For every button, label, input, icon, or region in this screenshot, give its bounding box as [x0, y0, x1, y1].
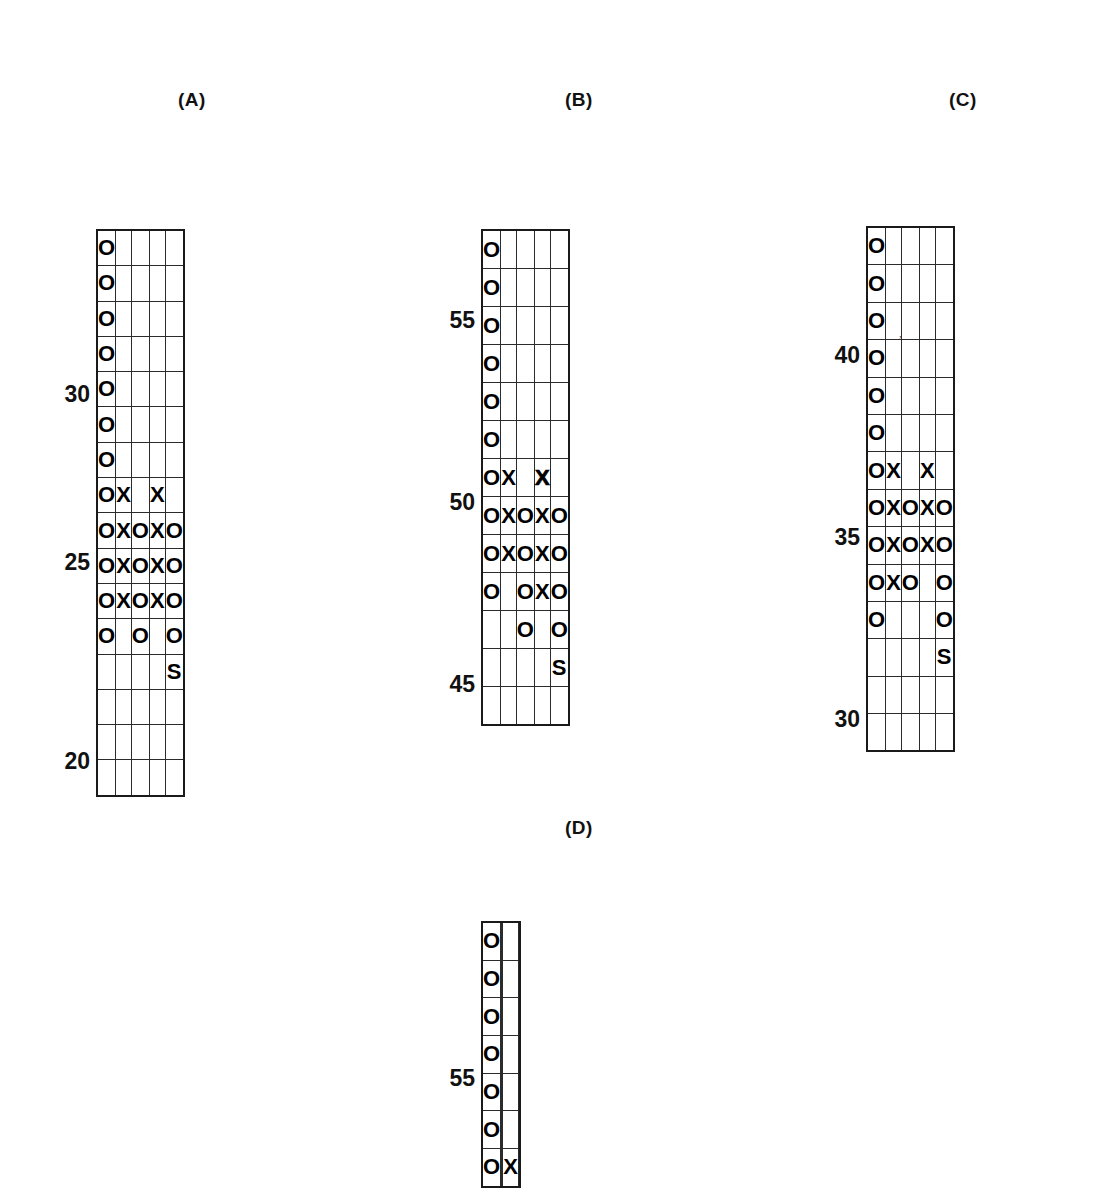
- chart-title-d: (D): [565, 817, 593, 839]
- pf-cell-empty: [116, 760, 132, 796]
- pf-grid-row: O: [482, 1036, 520, 1074]
- pf-cell-o: O: [482, 1073, 501, 1111]
- axis-label-c-35: 35: [822, 524, 860, 551]
- pf-cell-empty: [886, 601, 902, 638]
- pf-cell-empty: [867, 714, 886, 752]
- pf-cell-empty: [534, 649, 550, 687]
- pf-grid-row: OX: [482, 1149, 520, 1187]
- pf-cell-empty: [534, 269, 550, 307]
- pf-cell-empty: [131, 372, 149, 407]
- pf-grid-row: O: [867, 377, 954, 414]
- pf-cell-empty: [501, 383, 517, 421]
- axis-label-d-55: 55: [437, 1065, 475, 1092]
- pf-cell-empty: [516, 383, 534, 421]
- chart-grid-b: OOOOOOOXXOXOXOOXOXOOOXOOOS: [481, 229, 570, 726]
- pf-cell-empty: [935, 227, 954, 265]
- pf-cell-empty: [131, 407, 149, 442]
- pf-cell-o: O: [165, 619, 184, 654]
- pf-cell-empty: [550, 459, 569, 497]
- pf-cell-empty: [919, 601, 935, 638]
- pf-cell-o: O: [97, 336, 116, 371]
- pf-cell-empty: [534, 687, 550, 726]
- pf-cell-empty: [131, 689, 149, 724]
- pf-cell-o: O: [482, 269, 501, 307]
- pf-cell-empty: [550, 307, 569, 345]
- pf-cell-o: O: [867, 564, 886, 601]
- pf-cell-s: S: [935, 639, 954, 676]
- pf-cell-empty: [165, 372, 184, 407]
- pf-grid-row: OXX: [97, 478, 184, 513]
- pf-cell-o: O: [97, 407, 116, 442]
- pf-cell-o: O: [482, 998, 501, 1036]
- pf-cell-empty: [501, 421, 517, 459]
- pf-cell-empty: [901, 302, 919, 339]
- axis-label-b-45: 45: [437, 671, 475, 698]
- pf-cell-empty: [901, 639, 919, 676]
- pf-cell-x: X: [149, 548, 165, 583]
- pf-cell-x: X: [886, 527, 902, 564]
- pf-cell-empty: [165, 725, 184, 760]
- pf-grid-row: OXOXO: [867, 489, 954, 526]
- pf-cell-empty: [534, 611, 550, 649]
- pf-grid-row: O: [482, 345, 569, 383]
- pf-grid-row: [867, 676, 954, 713]
- pf-cell-x: X: [501, 497, 517, 535]
- pf-cell-empty: [503, 960, 519, 998]
- pf-cell-empty: [518, 960, 520, 998]
- pf-grid-row: O: [867, 265, 954, 302]
- pf-cell-empty: [901, 265, 919, 302]
- pf-cell-empty: [165, 301, 184, 336]
- pf-cell-empty: [518, 1149, 520, 1187]
- pf-cell-empty: [149, 230, 165, 266]
- pf-cell-o: O: [935, 527, 954, 564]
- pf-grid-row: S: [482, 649, 569, 687]
- pf-cell-empty: [886, 227, 902, 265]
- pf-cell-empty: [919, 340, 935, 377]
- pf-cell-empty: [503, 922, 519, 960]
- pf-cell-empty: [97, 689, 116, 724]
- pf-cell-empty: [503, 998, 519, 1036]
- pf-cell-empty: [116, 689, 132, 724]
- pf-cell-empty: [116, 619, 132, 654]
- pf-cell-empty: [919, 564, 935, 601]
- pf-cell-empty: [901, 414, 919, 451]
- pf-cell-empty: [516, 230, 534, 269]
- pf-grid-row: O: [482, 922, 520, 960]
- pf-cell-o: O: [97, 266, 116, 301]
- pf-cell-empty: [518, 1073, 520, 1111]
- pf-cell-empty: [149, 266, 165, 301]
- pf-grid-row: OOO: [97, 619, 184, 654]
- pf-grid-row: [482, 687, 569, 726]
- pf-cell-empty: [901, 340, 919, 377]
- pf-grid-row: OXOXO: [867, 527, 954, 564]
- pf-cell-empty: [116, 372, 132, 407]
- pf-grid-row: OXOXO: [482, 497, 569, 535]
- pf-cell-o: O: [482, 497, 501, 535]
- pf-cell-o: O: [550, 611, 569, 649]
- pf-cell-empty: [503, 1111, 519, 1149]
- pf-grid-row: [97, 760, 184, 796]
- pf-cell-empty: [149, 301, 165, 336]
- pf-cell-o: O: [867, 489, 886, 526]
- pf-cell-empty: [550, 421, 569, 459]
- pf-cell-o: O: [482, 922, 501, 960]
- pf-cell-empty: [501, 345, 517, 383]
- pf-cell-o: O: [482, 573, 501, 611]
- pf-grid-table-c: OOOOOOOXXOXOXOOXOXOOXOOOOS: [866, 226, 955, 752]
- pf-cell-empty: [501, 269, 517, 307]
- pf-cell-x: X: [886, 564, 902, 601]
- pf-cell-o: O: [516, 497, 534, 535]
- pf-cell-empty: [919, 265, 935, 302]
- pf-cell-o: O: [131, 548, 149, 583]
- pf-cell-o: O: [165, 548, 184, 583]
- pf-cell-empty: [131, 301, 149, 336]
- pf-cell-o: O: [482, 307, 501, 345]
- pf-grid-row: OXX: [867, 452, 954, 489]
- pf-cell-empty: [149, 725, 165, 760]
- pf-cell-x: X: [116, 513, 132, 548]
- pf-grid-row: O: [97, 266, 184, 301]
- pf-cell-x: X: [149, 478, 165, 513]
- pf-cell-o: O: [97, 478, 116, 513]
- pf-cell-o: O: [867, 340, 886, 377]
- pf-cell-empty: [501, 687, 517, 726]
